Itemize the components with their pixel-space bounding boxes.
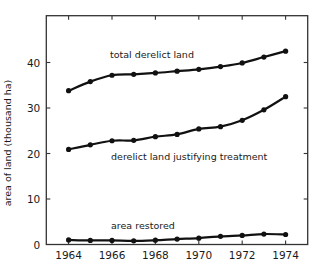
x-tick-label: 1974 xyxy=(272,249,299,261)
line-chart: 196419661968197019721974010203040 area o… xyxy=(0,0,322,276)
data-point-marker xyxy=(218,64,223,69)
data-point-marker xyxy=(66,88,71,93)
y-tick-label: 30 xyxy=(27,102,40,114)
x-tick-label: 1970 xyxy=(185,249,212,261)
data-point-marker xyxy=(240,60,245,65)
data-point-marker xyxy=(261,54,266,59)
data-point-marker xyxy=(175,69,180,74)
data-point-marker xyxy=(283,232,288,237)
data-point-marker xyxy=(283,49,288,54)
data-point-marker xyxy=(218,234,223,239)
series-label-restored: area restored xyxy=(111,220,175,231)
data-point-marker xyxy=(131,72,136,77)
data-point-marker xyxy=(218,124,223,129)
y-tick-label: 0 xyxy=(34,239,41,251)
data-point-marker xyxy=(131,238,136,243)
data-point-marker xyxy=(66,147,71,152)
data-point-marker xyxy=(153,238,158,243)
data-point-marker xyxy=(196,67,201,72)
data-point-marker xyxy=(261,107,266,112)
data-point-marker xyxy=(66,237,71,242)
y-tick-label: 40 xyxy=(27,57,40,69)
x-tick-label: 1964 xyxy=(55,249,82,261)
data-point-marker xyxy=(261,231,266,236)
x-tick-label: 1968 xyxy=(142,249,169,261)
data-point-marker xyxy=(240,233,245,238)
data-point-marker xyxy=(109,73,114,78)
data-point-marker xyxy=(196,236,201,241)
y-axis-label: area of land (thousand ha) xyxy=(2,80,13,207)
data-point-marker xyxy=(196,126,201,131)
data-point-marker xyxy=(88,238,93,243)
x-tick-label: 1972 xyxy=(229,249,256,261)
data-point-marker xyxy=(88,142,93,147)
y-tick-label: 10 xyxy=(27,193,40,205)
y-tick-label: 20 xyxy=(27,148,40,160)
series-group xyxy=(66,49,288,244)
data-point-marker xyxy=(109,138,114,143)
data-point-marker xyxy=(175,132,180,137)
x-tick-label: 1966 xyxy=(99,249,126,261)
data-point-marker xyxy=(240,118,245,123)
data-point-marker xyxy=(153,134,158,139)
data-point-marker xyxy=(109,238,114,243)
data-point-marker xyxy=(175,236,180,241)
series-label-total: total derelict land xyxy=(110,49,194,60)
data-point-marker xyxy=(283,94,288,99)
data-point-marker xyxy=(153,70,158,75)
data-point-marker xyxy=(88,79,93,84)
series-label-treatment: derelict land justifying treatment xyxy=(111,151,268,162)
series-line-1 xyxy=(69,97,286,150)
data-point-marker xyxy=(131,138,136,143)
